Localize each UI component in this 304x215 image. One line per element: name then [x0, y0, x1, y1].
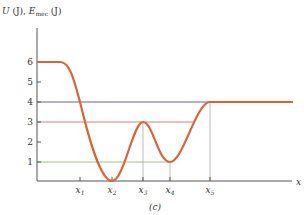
- y-tick-6: 6: [27, 57, 33, 67]
- y-tick-4: 4: [27, 97, 33, 107]
- x-axis-label: x: [296, 177, 301, 187]
- panel-label: (c): [149, 202, 162, 212]
- y-axis-label: U (J), Emec (J): [2, 6, 62, 17]
- x-tick-4: x4: [166, 185, 175, 196]
- y-ticks: [37, 62, 41, 162]
- x-tick-2: x2: [108, 185, 117, 196]
- energy-chart: 6 5 4 3 2 1 x1 x2 x3 x4 x5 U (J), Emec (…: [0, 0, 304, 215]
- y-tick-3: 3: [27, 117, 33, 127]
- x-tick-1: x1: [76, 185, 85, 196]
- x-ticks: [80, 177, 210, 181]
- x-tick-3: x3: [139, 185, 148, 196]
- y-tick-1: 1: [27, 157, 33, 167]
- x-tick-5: x5: [206, 185, 215, 196]
- y-tick-5: 5: [27, 77, 33, 87]
- y-tick-2: 2: [27, 137, 33, 147]
